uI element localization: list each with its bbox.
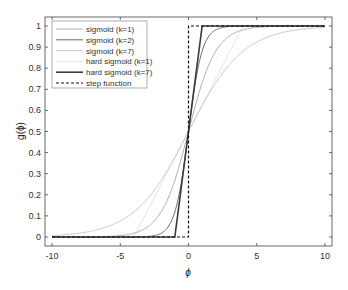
legend-entry: hard sigmoid (k=1) [86, 57, 153, 66]
x-tick-label: -5 [116, 251, 124, 261]
y-tick-label: 0.2 [28, 190, 41, 200]
legend: sigmoid (k=1)sigmoid (k=2)sigmoid (k=7)h… [52, 21, 153, 88]
legend-entry: step function [86, 79, 131, 88]
y-tick-label: 0 [36, 232, 41, 242]
y-axis-label: g(ϕ) [15, 122, 26, 140]
x-tick-label: 0 [186, 251, 191, 261]
x-axis-label: ϕ [185, 267, 191, 278]
y-tick-label: 0.5 [28, 127, 41, 137]
y-tick-label: 1 [36, 21, 41, 31]
legend-entry: sigmoid (k=1) [86, 25, 135, 34]
y-tick-label: 0.8 [28, 63, 41, 73]
legend-entry: sigmoid (k=7) [86, 47, 135, 56]
x-tick-label: 10 [320, 251, 330, 261]
y-tick-label: 0.9 [28, 42, 41, 52]
chart: -10-50510 00.10.20.30.40.50.60.70.80.91 … [0, 0, 348, 290]
y-tick-label: 0.7 [28, 84, 41, 94]
y-tick-label: 0.1 [28, 211, 41, 221]
legend-entry: sigmoid (k=2) [86, 36, 135, 45]
x-tick-label: -10 [45, 251, 58, 261]
y-tick-label: 0.4 [28, 148, 41, 158]
y-tick-label: 0.6 [28, 105, 41, 115]
y-tick-label: 0.3 [28, 169, 41, 179]
legend-entry: hard sigmoid (k=7) [86, 68, 153, 77]
x-tick-label: 5 [254, 251, 259, 261]
